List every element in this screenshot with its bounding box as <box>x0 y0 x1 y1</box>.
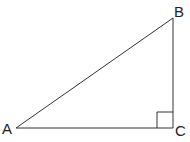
triangle-figure <box>0 0 190 142</box>
side-ab <box>16 18 173 128</box>
right-angle-marker <box>157 112 173 128</box>
vertex-label-c: C <box>175 123 186 138</box>
vertex-label-b: B <box>174 4 184 19</box>
vertex-label-a: A <box>2 121 12 136</box>
